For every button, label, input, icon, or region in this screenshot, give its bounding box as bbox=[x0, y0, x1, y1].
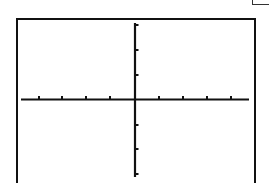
coordinate-plane bbox=[0, 0, 269, 183]
